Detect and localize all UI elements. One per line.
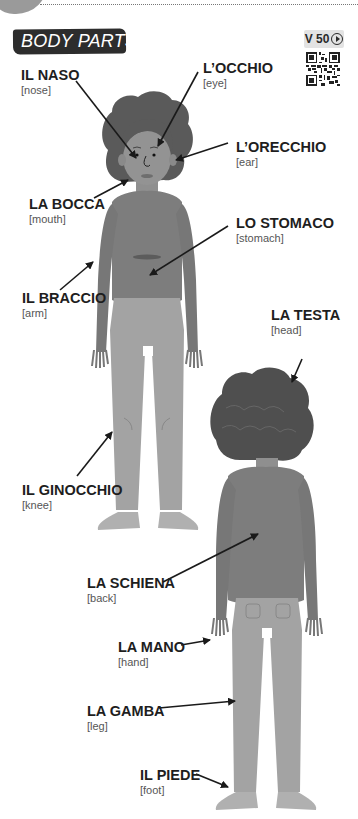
- body-illustration: [0, 0, 358, 819]
- label-leg: LA GAMBA[leg]: [87, 703, 165, 733]
- label-mouth: LA BOCCA[mouth]: [29, 196, 105, 226]
- label-nose: IL NASO[nose]: [21, 67, 80, 97]
- label-back: LA SCHIENA[back]: [87, 575, 175, 605]
- label-arm: IL BRACCIO[arm]: [22, 290, 106, 320]
- label-head: LA TESTA[head]: [271, 307, 340, 337]
- label-knee: IL GINOCCHIO[knee]: [22, 482, 122, 512]
- label-ear: L’ORECCHIO[ear]: [236, 139, 326, 169]
- label-eye: L’OCCHIO[eye]: [203, 60, 273, 90]
- back-figure: [210, 368, 322, 810]
- label-foot: IL PIEDE[foot]: [140, 767, 200, 797]
- label-hand: LA MANO[hand]: [118, 639, 185, 669]
- label-stomach: LO STOMACO[stomach]: [236, 215, 334, 245]
